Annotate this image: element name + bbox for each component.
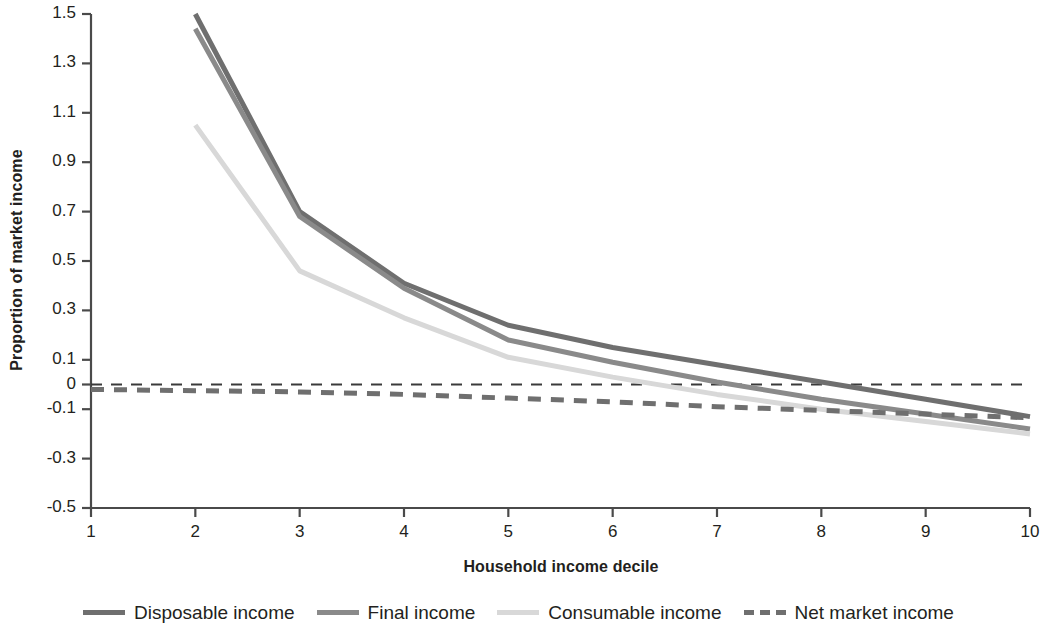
series-line-disposable-income	[195, 14, 1030, 417]
x-axis-title: Household income decile	[91, 558, 1031, 576]
axis-ticks	[82, 14, 1030, 517]
legend-item[interactable]: Final income	[317, 602, 476, 624]
legend-swatch-line-icon	[317, 610, 359, 615]
legend-label: Disposable income	[134, 602, 295, 624]
legend-swatch-line-icon	[497, 610, 539, 615]
legend-item[interactable]: Disposable income	[83, 602, 295, 624]
series-line-final-income	[195, 29, 1030, 429]
data-series-group	[91, 14, 1030, 434]
legend-item[interactable]: Net market income	[744, 602, 954, 624]
legend-item[interactable]: Consumable income	[497, 602, 721, 624]
chart-legend: Disposable incomeFinal incomeConsumable …	[0, 595, 1037, 630]
legend-label: Net market income	[795, 602, 954, 624]
legend-label: Final income	[368, 602, 476, 624]
series-line-consumable-income	[195, 125, 1030, 434]
legend-swatch-line-icon	[744, 610, 786, 615]
legend-swatch-line-icon	[83, 610, 125, 615]
legend-label: Consumable income	[548, 602, 721, 624]
